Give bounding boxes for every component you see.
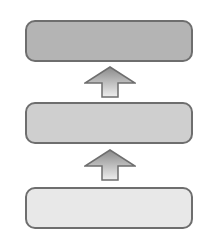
arrow-up-icon bbox=[84, 66, 136, 98]
layer-top-box bbox=[25, 20, 193, 62]
arrow-up-icon bbox=[84, 149, 136, 181]
layer-middle-box bbox=[25, 102, 193, 144]
layer-bottom-box bbox=[25, 187, 193, 229]
